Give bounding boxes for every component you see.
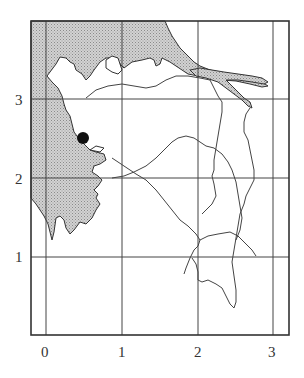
river-channel (190, 68, 268, 108)
x-tick-3: 3 (268, 344, 276, 360)
location-marker (77, 132, 89, 144)
grid-lines (31, 21, 289, 335)
y-tick-2: 2 (15, 171, 23, 187)
boundary-lines (86, 76, 256, 308)
y-tick-3: 3 (15, 92, 23, 108)
x-tick-0: 0 (41, 344, 49, 360)
map-figure: 0 1 2 3 1 2 3 (0, 0, 304, 378)
x-tick-2: 2 (194, 344, 202, 360)
shaded-sea-area (31, 21, 268, 240)
x-tick-1: 1 (118, 344, 126, 360)
y-tick-1: 1 (15, 249, 23, 265)
